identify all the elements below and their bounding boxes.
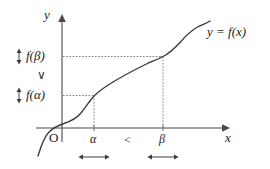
alpha-horizontal-arrow-icon bbox=[78, 155, 109, 160]
alpha-tick-label: α bbox=[90, 133, 96, 145]
y-axis-arrowhead bbox=[58, 14, 66, 22]
math-function-graph-figure: y x O f(β) f(α) ∨ α < β y = f(x) bbox=[0, 0, 270, 169]
y-axis-label: y bbox=[44, 8, 50, 21]
x-relation-symbol: < bbox=[124, 134, 131, 146]
origin-label: O bbox=[49, 131, 58, 144]
f-beta-value-label: f(β) bbox=[26, 49, 45, 62]
curve-equation-label: y = f(x) bbox=[207, 25, 246, 38]
f-alpha-value-label: f(α) bbox=[26, 88, 45, 101]
beta-tick-label: β bbox=[159, 133, 165, 145]
f-alpha-vertical-arrow-icon bbox=[17, 88, 22, 104]
f-beta-vertical-arrow-icon bbox=[17, 49, 22, 65]
y-relation-symbol: ∨ bbox=[37, 69, 46, 81]
beta-horizontal-arrow-icon bbox=[147, 155, 178, 160]
x-axis bbox=[36, 124, 230, 132]
x-axis-label: x bbox=[225, 131, 231, 144]
